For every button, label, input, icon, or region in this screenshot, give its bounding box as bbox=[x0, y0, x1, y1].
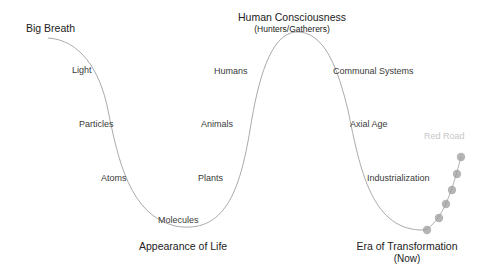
label-axial-age: Axial Age bbox=[350, 119, 388, 130]
human-consciousness-subtitle: (Hunters/Gatherers) bbox=[238, 24, 346, 34]
dot-icon bbox=[457, 153, 465, 161]
label-humans: Humans bbox=[214, 66, 248, 77]
label-industrialization: Industrialization bbox=[367, 173, 430, 184]
evolution-wave-curve bbox=[0, 0, 489, 280]
dot-icon bbox=[423, 226, 431, 234]
label-red-road: Red Road bbox=[424, 131, 465, 142]
label-particles: Particles bbox=[79, 119, 114, 130]
dot-icon bbox=[435, 214, 443, 222]
label-era-of-transformation: Era of Transformation (Now) bbox=[357, 240, 458, 265]
label-plants: Plants bbox=[198, 173, 223, 184]
label-light: Light bbox=[72, 65, 92, 76]
era-subtitle: (Now) bbox=[357, 253, 458, 265]
dot-icon bbox=[442, 200, 450, 208]
label-molecules: Molecules bbox=[158, 215, 199, 226]
dot-icon bbox=[448, 186, 456, 194]
label-communal-systems: Communal Systems bbox=[333, 66, 414, 77]
human-consciousness-title: Human Consciousness bbox=[238, 11, 346, 23]
wave-path bbox=[48, 32, 425, 230]
label-human-consciousness: Human Consciousness (Hunters/Gatherers) bbox=[238, 11, 346, 34]
label-appearance-of-life: Appearance of Life bbox=[139, 240, 227, 253]
label-atoms: Atoms bbox=[101, 173, 127, 184]
label-animals: Animals bbox=[201, 119, 233, 130]
era-title: Era of Transformation bbox=[357, 240, 458, 252]
dot-icon bbox=[453, 170, 461, 178]
label-big-breath: Big Breath bbox=[26, 22, 75, 35]
